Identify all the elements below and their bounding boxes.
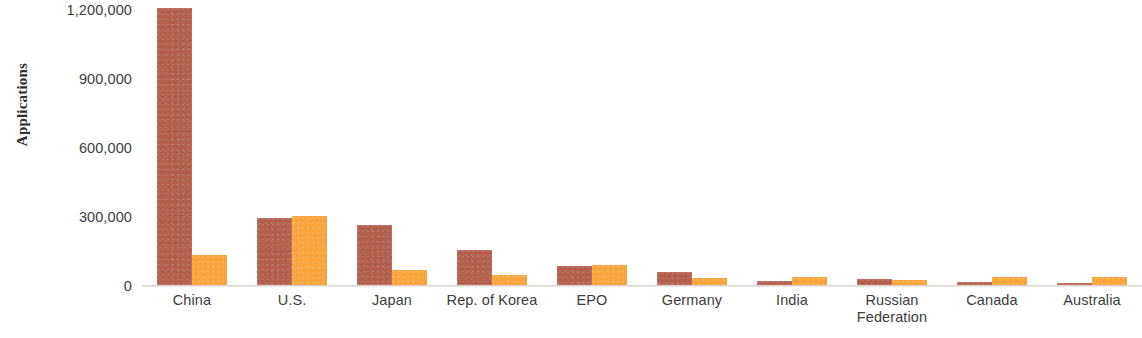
bar bbox=[457, 250, 492, 285]
x-tick-label-line: Germany bbox=[642, 292, 742, 309]
x-tick-label-line: Federation bbox=[842, 309, 942, 326]
bar bbox=[192, 255, 227, 285]
bar bbox=[557, 266, 592, 285]
bar bbox=[992, 277, 1027, 285]
bar-group bbox=[342, 10, 442, 285]
bar-group bbox=[742, 10, 842, 285]
x-axis-baseline bbox=[142, 285, 1142, 286]
x-tick-label: EPO bbox=[542, 292, 642, 338]
x-tick-label-line: Russian bbox=[842, 292, 942, 309]
bar-groups bbox=[142, 10, 1142, 285]
x-tick-label: Germany bbox=[642, 292, 742, 338]
plot-area bbox=[142, 10, 1142, 286]
x-tick-label-line: China bbox=[142, 292, 242, 309]
bar bbox=[392, 270, 427, 285]
x-tick-label: Canada bbox=[942, 292, 1042, 338]
x-tick-label: China bbox=[142, 292, 242, 338]
x-tick-label-line: India bbox=[742, 292, 842, 309]
bar-group bbox=[642, 10, 742, 285]
bar-group bbox=[842, 10, 942, 285]
x-tick-label: U.S. bbox=[242, 292, 342, 338]
x-tick-label-line: U.S. bbox=[242, 292, 342, 309]
x-tick-label-line: Australia bbox=[1042, 292, 1142, 309]
x-tick-label-line: EPO bbox=[542, 292, 642, 309]
y-tick-label: 900,000 bbox=[79, 71, 132, 87]
bar-group bbox=[942, 10, 1042, 285]
bar bbox=[492, 275, 527, 285]
bar-group bbox=[542, 10, 642, 285]
bar bbox=[692, 278, 727, 285]
x-tick-label-line: Rep. of Korea bbox=[442, 292, 542, 309]
bar-group bbox=[242, 10, 342, 285]
x-tick-label: India bbox=[742, 292, 842, 338]
bar bbox=[657, 272, 692, 285]
bar bbox=[1092, 277, 1127, 285]
bar-group bbox=[142, 10, 242, 285]
x-axis-tick-labels: ChinaU.S.JapanRep. of KoreaEPOGermanyInd… bbox=[142, 292, 1142, 338]
x-tick-label-line: Canada bbox=[942, 292, 1042, 309]
bar bbox=[357, 225, 392, 285]
x-tick-label: Rep. of Korea bbox=[442, 292, 542, 338]
y-tick-label: 600,000 bbox=[79, 140, 132, 156]
x-tick-label-line: Japan bbox=[342, 292, 442, 309]
bar-group bbox=[442, 10, 542, 285]
y-tick-label: 0 bbox=[124, 278, 132, 294]
bar bbox=[257, 218, 292, 285]
y-axis-tick-labels: 0300,000600,000900,0001,200,000 bbox=[0, 0, 140, 338]
bar bbox=[292, 216, 327, 285]
x-tick-label: Australia bbox=[1042, 292, 1142, 338]
y-tick-label: 1,200,000 bbox=[67, 2, 132, 18]
bar-group bbox=[1042, 10, 1142, 285]
bar bbox=[592, 265, 627, 285]
bar bbox=[792, 277, 827, 285]
y-tick-label: 300,000 bbox=[79, 209, 132, 225]
x-tick-label: RussianFederation bbox=[842, 292, 942, 338]
bar bbox=[157, 8, 192, 285]
x-tick-label: Japan bbox=[342, 292, 442, 338]
bar-chart: Applications 0300,000600,000900,0001,200… bbox=[0, 0, 1142, 338]
